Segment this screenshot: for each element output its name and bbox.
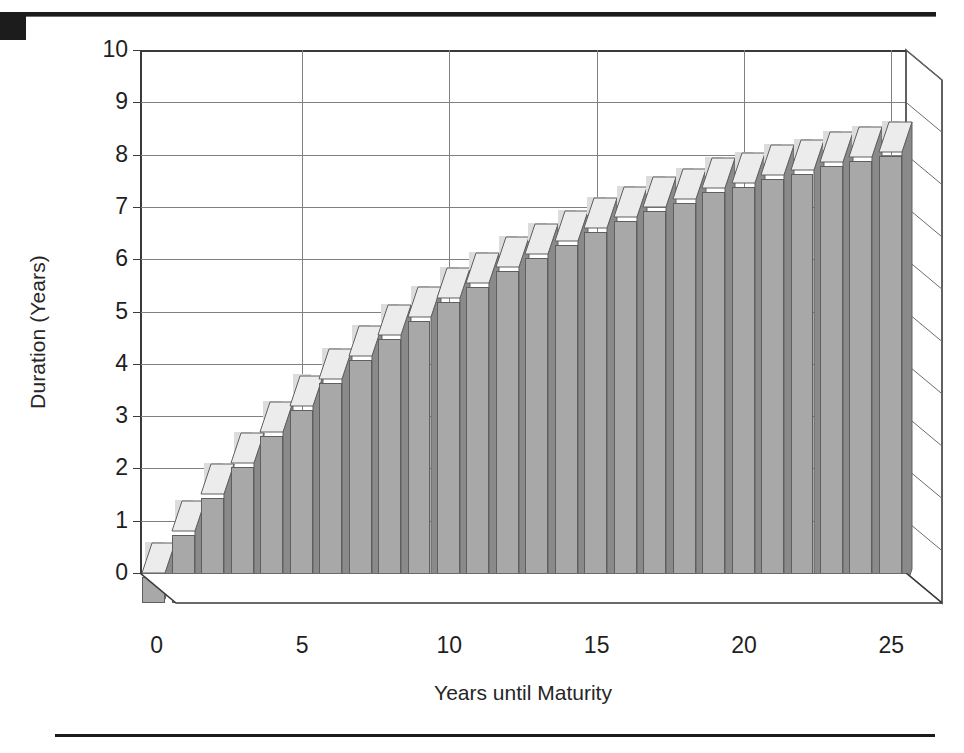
- x-axis-title: Years until Maturity: [140, 681, 906, 705]
- bar-side-face: [902, 122, 912, 599]
- bar-21: [732, 157, 765, 603]
- figure-root: Duration (Years) Years until Maturity 01…: [0, 0, 964, 753]
- y-tick-8: 8: [82, 143, 128, 166]
- bar-4: [231, 437, 264, 603]
- bar-12: [466, 257, 499, 603]
- y-tick-6: 6: [82, 247, 128, 270]
- bar-25: [849, 131, 882, 603]
- bar-6: [290, 380, 323, 604]
- bar-1: [142, 547, 175, 603]
- bar-14: [525, 228, 558, 603]
- bar-2: [172, 505, 205, 603]
- bar-19: [673, 173, 706, 603]
- top-rule: [0, 12, 936, 16]
- y-tick-5: 5: [82, 300, 128, 323]
- bar-20: [702, 162, 735, 603]
- y-tick-4: 4: [82, 352, 128, 375]
- x-tick-5: 5: [272, 634, 332, 657]
- bottom-rule: [55, 734, 935, 737]
- y-tickmark-0: [133, 573, 141, 574]
- x-tick-10: 10: [419, 634, 479, 657]
- bar-7: [319, 353, 352, 603]
- x-tick-0: 0: [127, 634, 187, 657]
- bar-24: [820, 136, 853, 603]
- y-tick-9: 9: [82, 90, 128, 113]
- y-tick-0: 0: [82, 561, 128, 584]
- y-tick-3: 3: [82, 404, 128, 427]
- y-tick-1: 1: [82, 509, 128, 532]
- bar-17: [614, 191, 647, 603]
- bar-10: [408, 291, 441, 603]
- plot-area: [140, 50, 906, 573]
- x-tick-20: 20: [714, 634, 774, 657]
- y-tick-10: 10: [82, 38, 128, 61]
- bar-3d-faces: [879, 122, 916, 603]
- y-tick-7: 7: [82, 195, 128, 218]
- x-tick-15: 15: [567, 634, 627, 657]
- y-axis-title: Duration (Years): [26, 202, 50, 462]
- bar-5: [260, 406, 293, 603]
- bar-26: [879, 126, 912, 603]
- bar-23: [791, 144, 824, 603]
- bar-22: [761, 149, 794, 603]
- bar-3: [201, 468, 234, 603]
- bar-16: [584, 202, 617, 603]
- bar-15: [555, 215, 588, 603]
- bar-13: [496, 241, 529, 603]
- x-tick-25: 25: [861, 634, 921, 657]
- y-tick-2: 2: [82, 456, 128, 479]
- bar-8: [349, 330, 382, 603]
- bar-11: [437, 272, 470, 603]
- bar-18: [643, 181, 676, 603]
- corner-block-icon: [0, 12, 26, 40]
- bar-series: [140, 50, 906, 573]
- bar-9: [378, 309, 411, 603]
